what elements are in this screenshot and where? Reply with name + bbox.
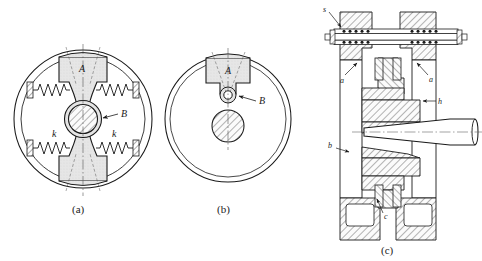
- panel-b-label-A: A: [224, 65, 232, 76]
- panel-c-upper-flange: [362, 88, 404, 100]
- panel-c-cap-right: [462, 34, 467, 40]
- panel-c-bolt-right: [393, 185, 401, 207]
- drawing-canvas: A B k k (a) A B (b): [0, 0, 482, 261]
- panel-c-upper-hub: [362, 100, 420, 122]
- panel-b-label-B: B: [259, 95, 265, 106]
- panel-a-label-k-left: k: [52, 128, 57, 139]
- panel-c-bearing-shaft: [334, 34, 458, 41]
- panel-c-bearing-race-lower: [334, 40, 458, 45]
- panel-c-label-a-left: a: [340, 76, 344, 85]
- panel-b-caption: (b): [217, 203, 230, 216]
- panel-a-label-k-right: k: [112, 128, 117, 139]
- spring-wall-lr: [133, 140, 139, 156]
- panel-c-right-window: [404, 204, 432, 226]
- panel-c-seal-left: [330, 30, 335, 44]
- panel-c-seal-right: [457, 30, 462, 44]
- panel-c-caption: (c): [381, 244, 394, 257]
- engineering-figure: A B k k (a) A B (b): [0, 0, 482, 261]
- panel-c-bolt-left-top: [375, 58, 383, 80]
- panel-c-label-c: c: [384, 212, 388, 221]
- panel-c-cap-left: [325, 34, 330, 40]
- panel-c-bolt-right-top: [393, 58, 401, 80]
- panel-a-caption: (a): [72, 203, 85, 216]
- panel-c-lower-hub: [362, 158, 420, 176]
- panel-c-label-a-right: a: [429, 75, 433, 84]
- spring-wall-ll: [27, 140, 33, 156]
- panel-a-label-A: A: [78, 63, 86, 74]
- spring-wall-ul: [27, 82, 33, 98]
- panel-c-bearing-race-upper: [334, 29, 458, 34]
- panel-c-label-b: b: [328, 141, 332, 150]
- panel-c-left-window: [346, 204, 374, 226]
- spring-wall-ur: [133, 82, 139, 98]
- panel-a-label-B: B: [121, 108, 127, 119]
- panel-c-label-h: h: [438, 97, 442, 106]
- panel-c-label-s: s: [323, 5, 326, 14]
